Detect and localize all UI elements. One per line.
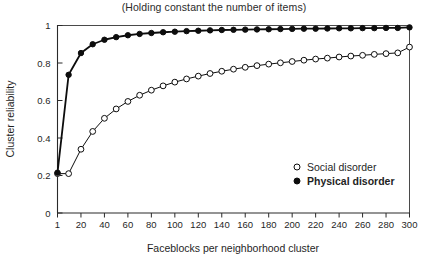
x-tick-label-1: 1: [55, 219, 60, 230]
data-point-social-disorder-190: [278, 60, 284, 66]
data-point-social-disorder-40: [102, 115, 108, 121]
y-tick-label-0.4: 0.4: [37, 133, 50, 144]
data-point-physical-disorder-210: [301, 26, 306, 31]
data-point-physical-disorder-180: [266, 27, 271, 32]
data-point-physical-disorder-50: [113, 34, 118, 39]
data-point-social-disorder-210: [301, 57, 307, 63]
series-line-physical-disorder: [58, 27, 410, 172]
data-point-physical-disorder-80: [149, 30, 154, 35]
legend-label-social-disorder: Social disorder: [307, 161, 377, 173]
x-tick-label-140: 140: [214, 219, 230, 230]
y-tick-label-0.8: 0.8: [37, 58, 50, 69]
data-point-social-disorder-250: [348, 53, 354, 59]
x-tick-label-180: 180: [261, 219, 277, 230]
data-point-physical-disorder-70: [137, 31, 142, 36]
data-point-physical-disorder-200: [289, 26, 294, 31]
data-point-social-disorder-120: [195, 73, 201, 79]
x-tick-label-200: 200: [284, 219, 300, 230]
data-point-physical-disorder-290: [395, 25, 400, 30]
data-point-physical-disorder-280: [383, 25, 388, 30]
data-point-physical-disorder-160: [243, 27, 248, 32]
chart-plot-area: 1204060801001201401601802002202402602803…: [0, 0, 428, 270]
data-point-social-disorder-130: [207, 71, 213, 77]
data-point-physical-disorder-120: [196, 28, 201, 33]
x-tick-label-160: 160: [237, 219, 253, 230]
data-point-physical-disorder-150: [231, 27, 236, 32]
x-tick-label-120: 120: [190, 219, 206, 230]
data-point-social-disorder-280: [383, 51, 389, 57]
x-tick-label-300: 300: [402, 219, 418, 230]
x-tick-label-60: 60: [123, 219, 134, 230]
x-tick-label-260: 260: [355, 219, 371, 230]
x-tick-label-240: 240: [331, 219, 347, 230]
x-tick-label-40: 40: [99, 219, 110, 230]
data-point-physical-disorder-90: [160, 30, 165, 35]
data-point-social-disorder-80: [148, 87, 154, 93]
data-point-physical-disorder-20: [78, 50, 83, 55]
y-axis-title: Cluster reliability: [4, 80, 16, 158]
data-point-physical-disorder-130: [207, 28, 212, 33]
data-point-social-disorder-290: [395, 50, 401, 56]
data-point-physical-disorder-230: [325, 26, 330, 31]
data-point-social-disorder-270: [371, 51, 377, 57]
y-tick-label-1: 1: [45, 20, 50, 31]
x-axis-ticks: 1204060801001201401601802002202402602803…: [55, 213, 418, 230]
data-point-social-disorder-60: [125, 99, 131, 105]
y-tick-label-0: 0: [45, 208, 50, 219]
legend-label-physical-disorder: Physical disorder: [307, 175, 395, 187]
data-point-physical-disorder-250: [348, 26, 353, 31]
x-axis-title: Faceblocks per neighborhood cluster: [147, 242, 320, 254]
data-point-physical-disorder-10: [66, 72, 71, 77]
data-point-social-disorder-110: [184, 76, 190, 82]
data-point-social-disorder-150: [231, 66, 237, 72]
y-tick-label-0.6: 0.6: [37, 95, 50, 106]
data-point-social-disorder-220: [313, 56, 319, 62]
data-point-physical-disorder-240: [336, 26, 341, 31]
legend-marker-physical-disorder: [294, 178, 300, 184]
data-point-social-disorder-240: [336, 54, 342, 60]
x-tick-label-220: 220: [308, 219, 324, 230]
data-point-physical-disorder-170: [254, 27, 259, 32]
x-tick-label-20: 20: [76, 219, 87, 230]
data-point-social-disorder-100: [172, 79, 178, 85]
data-point-physical-disorder-30: [90, 42, 95, 47]
data-point-physical-disorder-60: [125, 33, 130, 38]
x-tick-label-280: 280: [378, 219, 394, 230]
x-tick-label-80: 80: [146, 219, 157, 230]
data-point-social-disorder-10: [66, 171, 72, 177]
series-markers-group: [55, 25, 413, 177]
data-point-physical-disorder-260: [360, 25, 365, 30]
y-tick-label-0.2: 0.2: [37, 170, 50, 181]
chart-figure: (Holding constant the number of items) 1…: [0, 0, 428, 270]
data-point-social-disorder-230: [324, 55, 330, 61]
data-point-physical-disorder-40: [102, 37, 107, 42]
data-point-social-disorder-200: [289, 59, 295, 65]
data-point-social-disorder-170: [254, 63, 260, 69]
data-point-physical-disorder-100: [172, 29, 177, 34]
x-tick-label-100: 100: [167, 219, 183, 230]
data-point-physical-disorder-300: [407, 25, 412, 30]
data-point-social-disorder-90: [160, 83, 166, 89]
data-point-social-disorder-140: [219, 68, 225, 74]
data-point-social-disorder-70: [137, 92, 143, 98]
data-point-social-disorder-300: [407, 44, 413, 50]
data-point-physical-disorder-110: [184, 28, 189, 33]
data-point-physical-disorder-190: [278, 26, 283, 31]
y-axis-ticks: 00.20.40.60.81: [37, 20, 62, 219]
data-point-social-disorder-30: [90, 129, 96, 135]
chart-legend: Social disorder Physical disorder: [294, 161, 395, 187]
series-lines-group: [58, 27, 410, 173]
data-point-social-disorder-20: [78, 146, 84, 152]
data-point-physical-disorder-140: [219, 27, 224, 32]
data-point-physical-disorder-270: [372, 25, 377, 30]
data-point-social-disorder-260: [360, 52, 366, 58]
data-point-social-disorder-160: [242, 64, 248, 70]
data-point-social-disorder-50: [113, 106, 119, 112]
data-point-physical-disorder-1: [55, 170, 60, 175]
data-point-physical-disorder-220: [313, 26, 318, 31]
legend-marker-social-disorder: [294, 164, 300, 170]
data-point-social-disorder-180: [266, 61, 272, 67]
